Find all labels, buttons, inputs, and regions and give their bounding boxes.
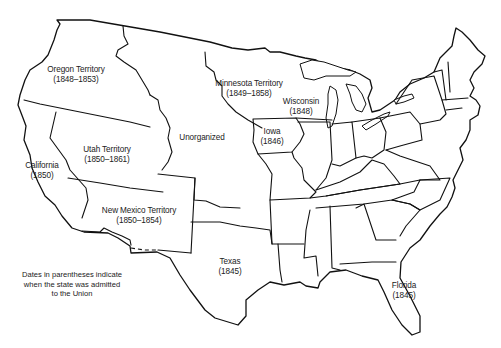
texas-dates: (1845): [218, 267, 241, 277]
new-mexico-dates: (1850–1854): [102, 216, 176, 226]
region-label-new-mexico: New Mexico Territory (1850–1854): [102, 206, 176, 226]
region-label-california: California (1850): [25, 161, 59, 181]
region-label-iowa: Iowa (1846): [260, 127, 283, 147]
region-label-oregon: Oregon Territory (1848–1853): [47, 65, 104, 85]
note-line-3: to the Union: [22, 289, 122, 299]
minnesota-dates: (1849–1858): [215, 89, 283, 99]
region-label-unorganized: Unorganized: [179, 133, 224, 143]
utah-name: Utah Territory: [83, 145, 131, 155]
california-name: California: [25, 161, 59, 171]
region-label-wisconsin: Wisconsin (1848): [283, 97, 319, 117]
note-line-1: Dates in parentheses indicate: [22, 270, 122, 280]
region-label-minnesota: Minnesota Territory (1849–1858): [215, 79, 283, 99]
note-line-2: when the state was admitted: [22, 280, 122, 290]
iowa-dates: (1846): [260, 137, 283, 147]
utah-dates: (1850–1861): [83, 155, 131, 165]
unorganized-name: Unorganized: [179, 133, 224, 143]
oregon-dates: (1848–1853): [47, 75, 104, 85]
california-dates: (1850): [25, 171, 59, 181]
minnesota-name: Minnesota Territory: [215, 79, 283, 89]
oregon-name: Oregon Territory: [47, 65, 104, 75]
region-label-florida: Florida (1845): [392, 281, 416, 301]
texas-name: Texas: [218, 257, 241, 267]
iowa-name: Iowa: [260, 127, 283, 137]
region-label-texas: Texas (1845): [218, 257, 241, 277]
map-note: Dates in parentheses indicate when the s…: [22, 270, 122, 299]
new-mexico-name: New Mexico Territory: [102, 206, 176, 216]
region-label-utah: Utah Territory (1850–1861): [83, 145, 131, 165]
wisconsin-dates: (1848): [283, 107, 319, 117]
florida-name: Florida: [392, 281, 416, 291]
florida-dates: (1845): [392, 291, 416, 301]
wisconsin-name: Wisconsin: [283, 97, 319, 107]
